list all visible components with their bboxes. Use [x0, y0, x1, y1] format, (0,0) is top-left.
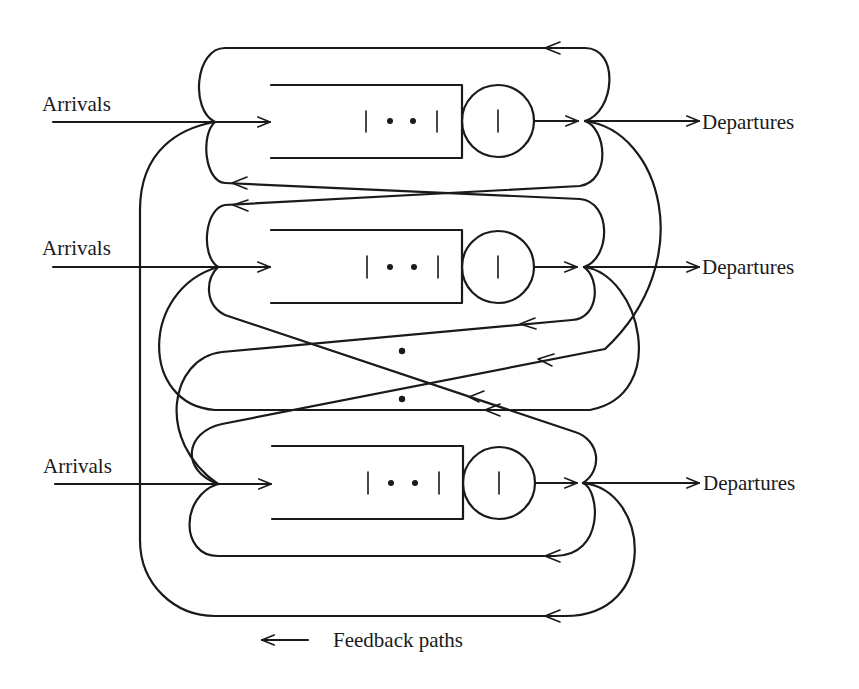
arrivals-label-1: Arrivals — [42, 92, 111, 116]
station-2: Arrivals Departures — [42, 230, 794, 303]
feedback-arrow-1-2 — [233, 200, 248, 211]
queue-dot-1b — [410, 118, 416, 124]
legend: Feedback paths — [262, 628, 463, 652]
queue-dot-2a — [387, 264, 393, 270]
feedback-2-to-3 — [177, 267, 595, 484]
feedback-3-to-2 — [209, 267, 596, 483]
feedback-paths — [140, 42, 661, 622]
ellipsis-dot-upper — [399, 348, 405, 354]
departures-label-3: Departures — [703, 471, 795, 495]
legend-label: Feedback paths — [333, 628, 463, 652]
queue-dot-2b — [411, 264, 417, 270]
station-1: Arrivals Departures — [42, 85, 794, 158]
ellipsis-dot-lower — [399, 396, 405, 402]
queue-dot-3a — [388, 480, 394, 486]
departures-label-1: Departures — [702, 110, 794, 134]
arrivals-label-3: Arrivals — [43, 454, 112, 478]
queue-dot-1a — [387, 118, 393, 124]
queueing-network-diagram: Arrivals Departures Arrivals Departures … — [0, 0, 859, 689]
departures-label-2: Departures — [702, 255, 794, 279]
station-3: Arrivals Departures — [43, 446, 795, 519]
arrivals-label-2: Arrivals — [42, 236, 111, 260]
queue-dot-3b — [412, 480, 418, 486]
feedback-1-to-2 — [207, 121, 602, 267]
